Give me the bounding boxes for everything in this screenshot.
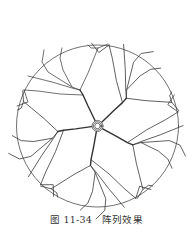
- figure-caption: 图 11-34阵列效果: [0, 212, 193, 226]
- figure-title: 阵列效果: [102, 214, 143, 225]
- array-effect-drawing: [0, 0, 193, 240]
- figure-number: 图 11-34: [50, 214, 92, 225]
- crack-pattern-unit: [17, 44, 108, 121]
